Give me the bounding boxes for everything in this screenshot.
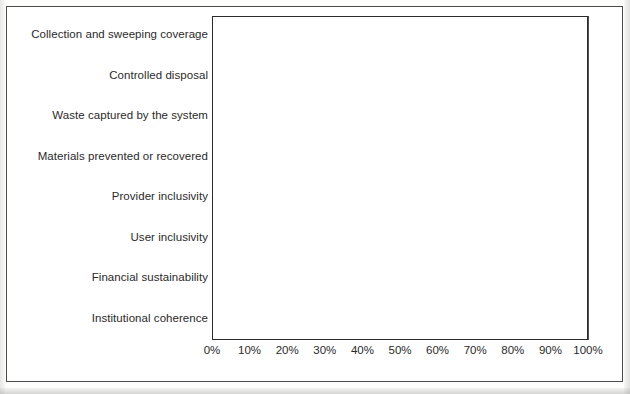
scan-edge-shading-right: [624, 0, 630, 394]
figure: Collection and sweeping coverageControll…: [0, 0, 630, 394]
y-axis-label: Institutional coherence: [8, 312, 208, 324]
y-axis-label: Provider inclusivity: [8, 190, 208, 202]
scan-edge-shading-left: [0, 0, 5, 394]
plot-area-border: [212, 16, 588, 340]
x-axis-tick-label: 20%: [276, 344, 299, 356]
x-axis-tick-label: 40%: [351, 344, 374, 356]
scan-edge-shading-bottom: [0, 388, 630, 394]
x-axis-tick-label: 80%: [501, 344, 524, 356]
gridline-100%: [588, 16, 589, 340]
y-axis-label: User inclusivity: [8, 231, 208, 243]
y-axis-label: Materials prevented or recovered: [8, 150, 208, 162]
y-axis-category-labels: Collection and sweeping coverageControll…: [8, 16, 208, 340]
y-axis-label: Waste captured by the system: [8, 109, 208, 121]
y-axis-label: Controlled disposal: [8, 69, 208, 81]
x-axis-tick-label: 50%: [388, 344, 411, 356]
y-axis-label: Financial sustainability: [8, 271, 208, 283]
bar-chart: [212, 16, 588, 340]
x-axis-tick-label: 90%: [539, 344, 562, 356]
x-axis-tick-label: 30%: [313, 344, 336, 356]
x-axis-tick-label: 60%: [426, 344, 449, 356]
x-axis-tick-label: 100%: [573, 344, 602, 356]
y-axis-label: Collection and sweeping coverage: [8, 28, 208, 40]
x-axis-tick-labels: 0%10%20%30%40%50%60%70%80%90%100%: [212, 344, 588, 364]
x-axis-tick-label: 0%: [204, 344, 221, 356]
x-axis-tick-label: 70%: [464, 344, 487, 356]
x-axis-tick-label: 10%: [238, 344, 261, 356]
